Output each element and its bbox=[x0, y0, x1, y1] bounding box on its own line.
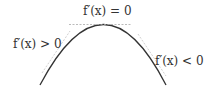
label-derivative-negative: f′(x) < 0 bbox=[155, 55, 204, 67]
label-derivative-positive: f′(x) > 0 bbox=[13, 38, 62, 50]
label-derivative-zero: f′(x) = 0 bbox=[83, 5, 132, 17]
concave-down-curve bbox=[40, 25, 166, 86]
